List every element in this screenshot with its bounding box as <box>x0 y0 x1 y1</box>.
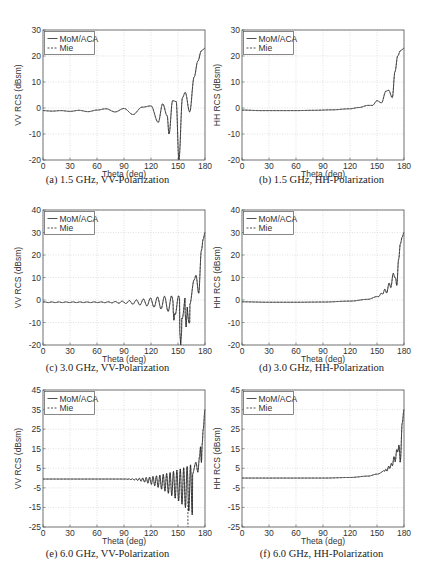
x-tick-label: 30 <box>65 346 75 356</box>
legend-entry: MoM/ACA <box>60 34 99 44</box>
legend: MoM/ACAMie <box>45 32 99 55</box>
x-axis-label: Theta (deg) <box>102 536 146 546</box>
legend: MoM/ACAMie <box>45 212 99 235</box>
caption-b: (b) 1.5 GHz, HH-Polarization <box>214 174 429 185</box>
y-axis-label: VV RCS (dBsm) <box>13 247 23 309</box>
x-tick-label: 60 <box>291 528 301 538</box>
panel-c: 0306090120150180-20-10010203040Theta (de… <box>0 190 215 385</box>
chart-b: 0306090120150180-20-100102030Theta (deg)… <box>214 0 429 190</box>
legend-entry: MoM/ACA <box>259 394 298 404</box>
y-tick-label: 35 <box>231 405 241 415</box>
legend-entry: Mie <box>259 43 273 53</box>
legend-entry: MoM/ACA <box>60 394 99 404</box>
y-tick-label: -20 <box>228 340 241 350</box>
x-tick-label: 180 <box>198 161 212 171</box>
y-tick-label: 0 <box>36 295 41 305</box>
x-tick-label: 30 <box>65 528 75 538</box>
y-tick-label: -20 <box>29 155 42 165</box>
y-tick-label: 30 <box>32 25 42 35</box>
y-tick-label: 45 <box>231 385 241 395</box>
y-tick-label: 30 <box>32 228 42 238</box>
legend-entry: MoM/ACA <box>60 214 99 224</box>
x-tick-label: 120 <box>144 346 158 356</box>
x-axis-label: Theta (deg) <box>301 536 345 546</box>
x-tick-label: 120 <box>144 528 158 538</box>
legend-entry: Mie <box>259 403 273 413</box>
legend: MoM/ACAMie <box>45 392 99 415</box>
y-tick-label: -15 <box>29 502 42 512</box>
y-tick-label: -10 <box>29 318 42 328</box>
y-tick-label: -20 <box>228 155 241 165</box>
y-tick-label: -10 <box>228 129 241 139</box>
y-tick-label: -25 <box>228 522 241 532</box>
x-tick-label: 120 <box>144 161 158 171</box>
y-tick-label: -25 <box>29 522 42 532</box>
y-tick-label: 20 <box>231 51 241 61</box>
x-tick-label: 60 <box>92 528 102 538</box>
legend: MoM/ACAMie <box>244 32 298 55</box>
x-tick-label: 150 <box>171 161 185 171</box>
y-tick-label: 40 <box>231 205 241 215</box>
x-tick-label: 150 <box>171 346 185 356</box>
y-tick-label: -10 <box>29 129 42 139</box>
x-tick-label: 60 <box>291 161 301 171</box>
x-tick-label: 60 <box>291 346 301 356</box>
y-tick-label: 20 <box>32 250 42 260</box>
y-tick-label: 25 <box>231 424 241 434</box>
x-tick-label: 0 <box>41 528 46 538</box>
chart-a: 0306090120150180-20-100102030Theta (deg)… <box>0 0 215 190</box>
panel-e: 0306090120150180-25-15-5515253545Theta (… <box>0 385 215 577</box>
legend: MoM/ACAMie <box>244 212 298 235</box>
y-tick-label: 5 <box>235 463 240 473</box>
caption-c: (c) 3.0 GHz, VV-Polarization <box>0 362 215 373</box>
x-tick-label: 0 <box>240 528 245 538</box>
legend-entry: MoM/ACA <box>259 214 298 224</box>
y-tick-label: -10 <box>228 318 241 328</box>
y-tick-label: 0 <box>235 295 240 305</box>
chart-d: 0306090120150180-20-10010203040Theta (de… <box>214 190 429 385</box>
x-tick-label: 30 <box>264 528 274 538</box>
caption-f: (f) 6.0 GHz, HH-Polarization <box>214 548 429 559</box>
x-tick-label: 0 <box>41 161 46 171</box>
x-tick-label: 30 <box>264 161 274 171</box>
x-tick-label: 180 <box>198 528 212 538</box>
x-tick-label: 180 <box>397 346 411 356</box>
x-tick-label: 150 <box>370 346 384 356</box>
y-tick-label: 10 <box>231 273 241 283</box>
y-tick-label: 10 <box>32 77 42 87</box>
y-tick-label: 30 <box>231 228 241 238</box>
caption-a: (a) 1.5 GHz, VV-Polarization <box>0 174 215 185</box>
y-tick-label: 45 <box>32 385 42 395</box>
x-tick-label: 0 <box>240 346 245 356</box>
y-tick-label: -20 <box>29 340 42 350</box>
y-axis-label: VV RCS (dBsm) <box>13 428 23 490</box>
y-tick-label: 5 <box>36 463 41 473</box>
chart-c: 0306090120150180-20-10010203040Theta (de… <box>0 190 215 385</box>
y-tick-label: 30 <box>231 25 241 35</box>
x-tick-label: 120 <box>343 346 357 356</box>
panel-b: 0306090120150180-20-100102030Theta (deg)… <box>214 0 429 190</box>
y-tick-label: 25 <box>32 424 42 434</box>
x-tick-label: 180 <box>198 346 212 356</box>
legend-entry: MoM/ACA <box>259 34 298 44</box>
y-tick-label: 0 <box>235 103 240 113</box>
x-tick-label: 60 <box>92 346 102 356</box>
legend-entry: Mie <box>60 223 74 233</box>
legend-entry: Mie <box>60 403 74 413</box>
x-tick-label: 150 <box>370 528 384 538</box>
y-tick-label: 15 <box>32 444 42 454</box>
y-tick-label: 0 <box>36 103 41 113</box>
x-tick-label: 180 <box>397 528 411 538</box>
y-tick-label: -5 <box>33 483 41 493</box>
y-axis-label: VV RCS (dBsm) <box>13 64 23 126</box>
x-tick-label: 150 <box>171 528 185 538</box>
y-tick-label: 35 <box>32 405 42 415</box>
x-tick-label: 60 <box>92 161 102 171</box>
y-tick-label: -5 <box>232 483 240 493</box>
panel-f: 0306090120150180-25-15-5515253545Theta (… <box>214 385 429 577</box>
y-tick-label: 15 <box>231 444 241 454</box>
y-axis-label: HH RCS (dBsm) <box>212 427 222 490</box>
y-tick-label: -15 <box>228 502 241 512</box>
legend: MoM/ACAMie <box>244 392 298 415</box>
panel-a: 0306090120150180-20-100102030Theta (deg)… <box>0 0 215 190</box>
